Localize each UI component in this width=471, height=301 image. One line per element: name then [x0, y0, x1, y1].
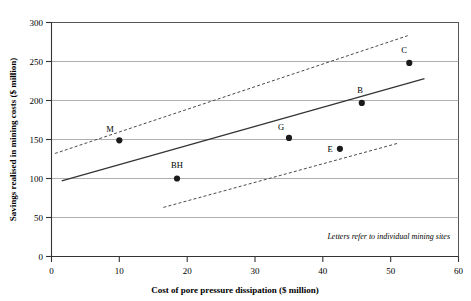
x-tick-label-50: 50: [386, 266, 396, 276]
x-axis: [52, 257, 459, 263]
point-marker[interactable]: [359, 100, 365, 106]
y-tick-label-0: 0: [39, 252, 44, 262]
x-tick-label-40: 40: [318, 266, 328, 276]
x-tick-labels: 0 10 20 30 40 50 60: [49, 266, 463, 276]
point-label-B: B: [357, 85, 363, 95]
point-label-C: C: [401, 45, 407, 55]
x-tick-label-30: 30: [251, 266, 261, 276]
y-tick-label-250: 250: [30, 57, 44, 67]
x-tick-label-60: 60: [454, 266, 464, 276]
y-tick-label-50: 50: [34, 213, 44, 223]
x-axis-title: Cost of pore pressure dissipation ($ mil…: [151, 285, 319, 295]
chart-canvas: 300 250 200 150 100 50 0 0 10 20 30 40 5…: [0, 0, 471, 301]
y-tick-labels: 300 250 200 150 100 50 0: [30, 18, 44, 262]
point-marker[interactable]: [286, 135, 292, 141]
point-label-E: E: [327, 144, 332, 154]
point-label-M: M: [106, 124, 114, 134]
chart-annotation: Letters refer to individual mining sites: [326, 232, 450, 241]
x-tick-label-0: 0: [49, 266, 54, 276]
y-axis: [46, 23, 52, 257]
point-label-BH: BH: [171, 160, 183, 170]
y-tick-label-200: 200: [30, 96, 44, 106]
point-label-G: G: [278, 122, 284, 132]
x-tick-label-10: 10: [115, 266, 125, 276]
y-tick-label-300: 300: [30, 18, 44, 28]
y-axis-title: Savings realised in mining costs ($ mill…: [8, 58, 18, 221]
x-tick-label-20: 20: [183, 266, 193, 276]
scatter-chart: 300 250 200 150 100 50 0 0 10 20 30 40 5…: [0, 0, 471, 301]
point-marker[interactable]: [406, 60, 412, 66]
point-marker[interactable]: [337, 146, 343, 152]
point-marker[interactable]: [174, 175, 180, 181]
point-marker[interactable]: [116, 137, 122, 143]
y-tick-label-150: 150: [30, 135, 44, 145]
y-tick-label-100: 100: [30, 174, 44, 184]
